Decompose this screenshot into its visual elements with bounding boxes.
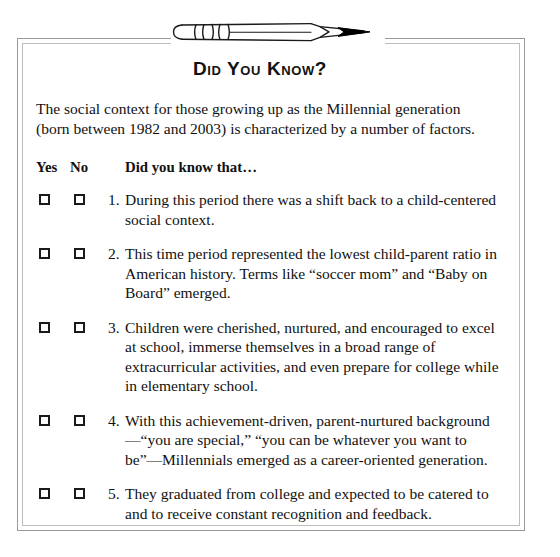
table-row: 1. During this period there was a shift …: [36, 190, 506, 229]
item-number-1: 1.: [108, 190, 125, 210]
checkbox-yes-5[interactable]: [39, 488, 50, 499]
checkbox-no-1[interactable]: [74, 194, 85, 205]
header-yes: Yes: [36, 159, 57, 176]
checkbox-yes-3[interactable]: [39, 322, 50, 333]
checkbox-no-4[interactable]: [74, 415, 85, 426]
content-area: Did You Know? The social context for tho…: [36, 58, 506, 523]
checkbox-no-2[interactable]: [74, 248, 85, 259]
table-row: 3. Children were cherished, nurtured, an…: [36, 318, 506, 396]
table-row: 4. With this achievement-driven, parent-…: [36, 411, 506, 470]
header-question: Did you know that…: [125, 159, 257, 176]
intro-paragraph: The social context for those growing up …: [36, 99, 491, 138]
checkbox-yes-1[interactable]: [39, 194, 50, 205]
item-text-1: During this period there was a shift bac…: [125, 190, 506, 229]
item-number-5: 5.: [108, 484, 125, 504]
column-headers: Yes No Did you know that…: [36, 159, 506, 181]
checkbox-yes-4[interactable]: [39, 415, 50, 426]
table-row: 5. They graduated from college and expec…: [36, 484, 506, 523]
page-canvas: Did You Know? The social context for tho…: [0, 0, 560, 557]
checklist: 1. During this period there was a shift …: [36, 190, 506, 523]
header-no: No: [70, 159, 88, 176]
pencil-icon: [168, 14, 390, 50]
item-number-4: 4.: [108, 411, 125, 431]
item-number-2: 2.: [108, 244, 125, 264]
item-text-5: They graduated from college and expected…: [125, 484, 506, 523]
item-text-2: This time period represented the lowest …: [125, 244, 506, 303]
checkbox-no-5[interactable]: [74, 488, 85, 499]
page-title: Did You Know?: [36, 58, 506, 80]
item-text-3: Children were cherished, nurtured, and e…: [125, 318, 506, 396]
checkbox-no-3[interactable]: [74, 322, 85, 333]
checkbox-yes-2[interactable]: [39, 248, 50, 259]
item-text-4: With this achievement-driven, parent-nur…: [125, 411, 506, 470]
table-row: 2. This time period represented the lowe…: [36, 244, 506, 303]
item-number-3: 3.: [108, 318, 125, 338]
